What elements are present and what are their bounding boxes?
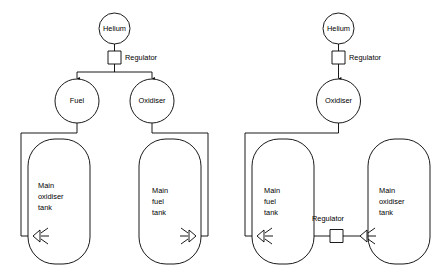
right-system-group: Helium Regulator Oxidiser Main fuel tank… [245, 13, 430, 264]
left-tank-label-line2: oxidiser [38, 192, 64, 201]
right-tank2-label-line1: Main [379, 186, 395, 195]
right-bottom-regulator-box[interactable] [330, 230, 343, 243]
left-regulator-label: Regulator [125, 53, 158, 62]
left-tank-label-line3: tank [38, 203, 52, 212]
right-oxidiser-label: Oxidiser [325, 96, 353, 105]
left-fuel-label: Fuel [70, 96, 85, 105]
left-tank2-label-line2: fuel [152, 197, 164, 206]
propellant-schematic-svg: Helium Regulator Fuel Oxidiser Main [0, 0, 440, 274]
left-main-fuel-tank[interactable] [139, 139, 201, 264]
right-tank2-label-line2: oxidiser [379, 197, 405, 206]
right-tank1-label-line2: fuel [264, 197, 276, 206]
schematic-diagram-canvas: Helium Regulator Fuel Oxidiser Main [0, 0, 440, 274]
right-top-regulator-label: Regulator [349, 53, 382, 62]
left-regulator-box[interactable] [108, 51, 121, 64]
left-tank-label-line1: Main [38, 181, 54, 190]
right-tank2-label-line3: tank [379, 208, 393, 217]
left-oxidiser-label: Oxidiser [138, 96, 166, 105]
left-tank2-label-line1: Main [152, 186, 168, 195]
right-helium-label: Helium [327, 24, 350, 33]
left-helium-label: Helium [103, 24, 126, 33]
left-main-oxidiser-tank[interactable] [28, 139, 90, 264]
right-main-fuel-tank[interactable] [252, 139, 314, 264]
right-bottom-regulator-label: Regulator [312, 214, 345, 223]
left-tank2-label-line3: tank [152, 208, 166, 217]
right-tank1-label-line3: tank [264, 208, 278, 217]
left-system-group: Helium Regulator Fuel Oxidiser Main [21, 13, 208, 264]
right-tank1-label-line1: Main [264, 186, 280, 195]
right-top-regulator-box[interactable] [332, 51, 345, 64]
